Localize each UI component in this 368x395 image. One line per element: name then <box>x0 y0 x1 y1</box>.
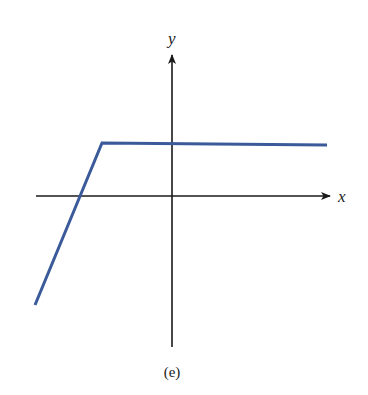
function-curve <box>35 143 327 305</box>
x-axis-label: x <box>337 187 346 206</box>
figure-caption: (e) <box>164 364 181 381</box>
y-axis-label: y <box>166 29 176 48</box>
function-graph: x y (e) <box>0 0 368 395</box>
